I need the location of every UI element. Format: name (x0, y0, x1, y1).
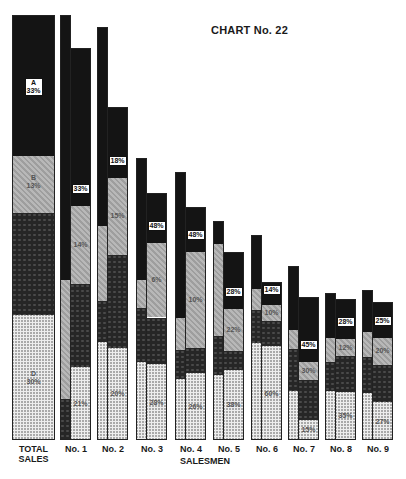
segment-d: 21% (71, 367, 90, 440)
segment-c (147, 318, 166, 365)
segment-label: 14% (262, 285, 280, 295)
segment-d: 60% (262, 346, 281, 440)
segment-a: 18% (108, 108, 127, 178)
segment-label: 30% (301, 367, 315, 375)
segment-label: 45% (299, 340, 317, 350)
x-label-salesman-7: No. 7 (284, 444, 324, 454)
segment-b: 14% (71, 206, 90, 284)
segment-c (137, 308, 146, 362)
segment-b: 30% (299, 362, 318, 379)
segment-label: 33% (71, 184, 89, 194)
segment-a (98, 28, 107, 226)
segment-d: 27% (373, 402, 392, 440)
segment-b: 20% (373, 338, 392, 366)
segment-b: 15% (108, 178, 127, 255)
wide-bar-2: 18%15%20% (107, 107, 128, 440)
segment-c (214, 336, 223, 375)
segment-b (363, 332, 372, 358)
total-sales-bar: A33% B13% D30% (12, 15, 55, 440)
wide-bar-1: 33%14%21% (70, 48, 91, 440)
segment-b: 12% (336, 339, 355, 356)
segment-a: 28% (336, 300, 355, 339)
segment-b (289, 330, 298, 349)
segment-label: 48% (186, 230, 204, 240)
segment-d (214, 375, 223, 440)
segment-label: 26% (188, 403, 202, 411)
segment-label: 10% (188, 296, 202, 304)
segment-c (262, 321, 281, 346)
segment-label-d: D30% (26, 370, 40, 386)
segment-label: 18% (108, 156, 126, 166)
segment-a (61, 16, 70, 280)
segment-b (61, 280, 70, 399)
segment-a (252, 236, 261, 289)
segment-label: 15% (110, 212, 124, 220)
segment-b: 6% (147, 243, 166, 317)
segment-d: 38% (224, 370, 243, 440)
segment-c (326, 362, 335, 391)
wide-bar-7: 45%30%15% (298, 297, 319, 440)
segment-c (61, 399, 70, 441)
segment-b: 22% (224, 309, 243, 350)
wide-bar-3: 48%6%28% (146, 193, 167, 440)
segment-label-b: B13% (26, 174, 40, 190)
segment-label: 48% (147, 221, 165, 231)
segment-label: 12% (338, 344, 352, 352)
segment-c (289, 349, 298, 391)
segment-label: 28% (224, 287, 242, 297)
chart-title: CHART No. 22 (211, 24, 288, 36)
segment-b (137, 280, 146, 308)
segment-b (98, 226, 107, 300)
segment-b (326, 338, 335, 362)
segment-c (71, 284, 90, 366)
segment-d: D30% (13, 315, 54, 440)
segment-c (373, 365, 392, 402)
x-label-salesman-6: No. 6 (247, 444, 287, 454)
segment-a: A33% (13, 16, 54, 156)
segment-d (363, 393, 372, 440)
segment-d: 35% (336, 392, 355, 440)
segment-a (289, 267, 298, 330)
segment-label: 22% (226, 326, 240, 334)
wide-bar-9: 25%20%27% (372, 302, 393, 440)
segment-a: 45% (299, 298, 318, 362)
segment-c (336, 356, 355, 391)
segment-b: 10% (186, 252, 205, 348)
segment-label: 38% (226, 401, 240, 409)
segment-a (176, 173, 185, 318)
x-label-total: TOTALSALES (12, 444, 55, 464)
segment-label: 10% (264, 309, 278, 317)
segment-c (186, 348, 205, 374)
segment-a: 48% (147, 194, 166, 243)
segment-a (137, 159, 146, 280)
segment-label: 6% (151, 276, 161, 284)
segment-c (224, 351, 243, 370)
segment-label: 28% (336, 317, 354, 327)
wide-bar-8: 28%12%35% (335, 299, 356, 440)
segment-d: 20% (108, 348, 127, 440)
x-label-salesman-3: No. 3 (132, 444, 172, 454)
segment-c (299, 380, 318, 420)
segment-b (176, 318, 185, 350)
segment-c (363, 357, 372, 393)
segment-d (326, 391, 335, 440)
x-label-salesman-1: No. 1 (56, 444, 96, 454)
segment-b (252, 289, 261, 310)
segment-c (176, 350, 185, 379)
segment-a: 14% (262, 283, 281, 305)
segment-label: 35% (338, 412, 352, 420)
segment-d (289, 391, 298, 440)
segment-d: 26% (186, 373, 205, 440)
segment-label: 15% (301, 426, 315, 434)
segment-d (252, 343, 261, 440)
segment-b: B13% (13, 156, 54, 213)
segment-b: 10% (262, 305, 281, 321)
segment-d (98, 342, 107, 440)
segment-c (98, 301, 107, 342)
segment-a (363, 291, 372, 332)
wide-bar-5: 28%22%38% (223, 252, 244, 440)
segment-c (108, 255, 127, 348)
segment-label: 14% (73, 241, 87, 249)
x-label-salesman-4: No. 4 (171, 444, 211, 454)
segment-label: 20% (375, 347, 389, 355)
